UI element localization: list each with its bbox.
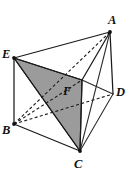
vertex-dot-A: [108, 30, 112, 34]
edge-A-F: [82, 32, 110, 80]
vertex-dot-C: [78, 149, 82, 153]
vertex-label-E: E: [2, 48, 10, 61]
edge-A-C: [80, 32, 110, 151]
vertex-label-A: A: [108, 14, 116, 27]
vertex-label-B: B: [2, 124, 10, 137]
edge-E-A: [14, 32, 110, 58]
geometry-figure: A E D F B C: [0, 0, 129, 177]
vertex-label-D: D: [116, 86, 125, 99]
vertex-label-F: F: [63, 85, 71, 98]
edge-A-D: [110, 32, 113, 94]
vertex-dot-B: [12, 122, 16, 126]
vertex-label-C: C: [74, 158, 82, 171]
edge-D-C: [80, 94, 113, 151]
vertex-dot-E: [12, 56, 16, 60]
